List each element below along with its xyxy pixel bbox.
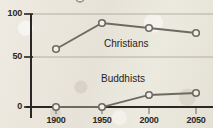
- buddhists-point-1950: [99, 104, 106, 111]
- x-tick-label-1950: 1950: [80, 115, 124, 125]
- line-chart-figure: 100 50 0 1900 1950 2000 2050 Christians …: [0, 0, 213, 128]
- x-tick-label-1900: 1900: [34, 115, 78, 125]
- y-tick-label-100: 100: [0, 8, 22, 18]
- christians-point-2000: [146, 25, 153, 32]
- cropped-marker-top-edge: [76, 0, 84, 2]
- x-tick-label-2000: 2000: [127, 115, 171, 125]
- buddhists-point-2050: [193, 90, 200, 97]
- series-annotation-buddhists: Buddhists: [101, 73, 145, 84]
- buddhists-point-2000: [146, 92, 153, 99]
- y-tick-label-0: 0: [0, 101, 22, 111]
- buddhists-line: [56, 93, 196, 107]
- series-annotation-christians: Christians: [104, 38, 148, 49]
- x-tick-marks: [56, 107, 196, 114]
- christians-point-2050: [193, 30, 200, 37]
- buddhists-point-1900: [53, 104, 60, 111]
- y-tick-label-50: 50: [0, 51, 22, 61]
- christians-point-1900: [53, 46, 60, 53]
- christians-point-1950: [99, 20, 106, 27]
- chart-plot-area: [0, 0, 213, 128]
- x-tick-label-2050: 2050: [174, 115, 213, 125]
